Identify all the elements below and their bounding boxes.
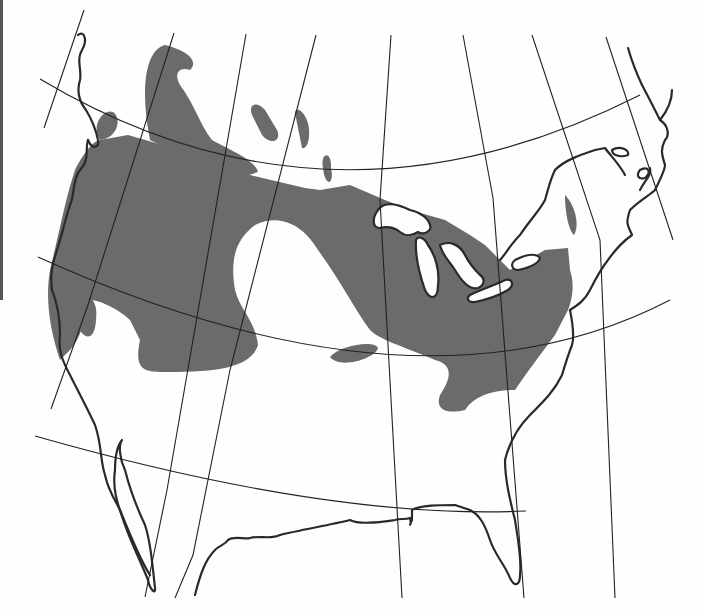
meridian-line xyxy=(606,37,673,240)
range-area xyxy=(565,195,577,235)
map-canvas xyxy=(0,0,704,614)
coastline xyxy=(555,148,625,175)
meridian-line xyxy=(44,10,84,128)
coastline xyxy=(195,535,280,595)
coastline xyxy=(78,34,98,147)
parallel-line xyxy=(35,436,526,512)
species-range-layer xyxy=(48,45,577,412)
coastline xyxy=(612,148,628,156)
range-area xyxy=(97,111,118,140)
coastline xyxy=(660,90,672,120)
coastline xyxy=(638,168,649,178)
range-map xyxy=(0,0,704,614)
range-area xyxy=(295,110,309,148)
range-area xyxy=(251,105,278,141)
coastline xyxy=(500,170,555,260)
range-area xyxy=(48,135,573,412)
